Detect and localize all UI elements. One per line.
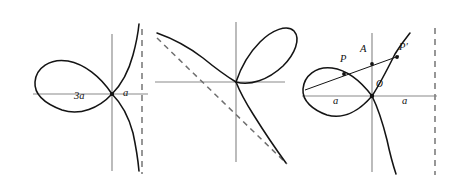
right-point-A bbox=[370, 62, 374, 66]
right-distance-label-a-left: a bbox=[333, 96, 338, 107]
right-folium-loop bbox=[303, 68, 372, 117]
right-point-P-prime bbox=[395, 55, 399, 59]
panel-right bbox=[302, 28, 437, 175]
middle-branch-upper-left bbox=[157, 33, 236, 82]
middle-oblique-asymptote bbox=[157, 38, 287, 164]
three-panel-figure-svg bbox=[0, 0, 454, 185]
left-node-point bbox=[110, 92, 114, 96]
right-origin-label-O: O bbox=[376, 80, 383, 90]
right-distance-label-a-right: a bbox=[402, 96, 407, 107]
left-branch-upper bbox=[112, 24, 139, 94]
right-branch-lower bbox=[372, 96, 396, 174]
right-point-label-A: A bbox=[360, 44, 366, 55]
middle-folium-loop bbox=[236, 28, 297, 83]
right-point-P bbox=[342, 72, 346, 76]
figure-canvas: 3a a P A P′ O a a bbox=[0, 0, 454, 185]
right-node-point-O bbox=[370, 94, 374, 98]
right-point-label-P-prime: P′ bbox=[399, 42, 408, 53]
left-branch-lower bbox=[112, 94, 139, 171]
panel-left bbox=[33, 24, 148, 174]
panel-middle bbox=[155, 22, 297, 164]
left-distance-label-a: a bbox=[123, 88, 128, 99]
right-point-label-P: P bbox=[340, 54, 346, 65]
left-loop-width-label: 3a bbox=[74, 91, 85, 102]
left-folium-loop bbox=[35, 60, 112, 112]
